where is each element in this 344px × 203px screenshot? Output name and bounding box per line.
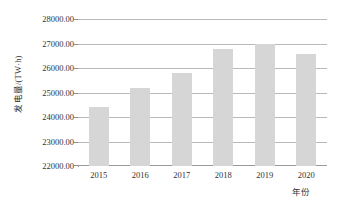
bar-chart: 发电量/(TW·h) 28000.00 27000.00 26000.00 25… <box>0 0 344 203</box>
x-tick-label: 2016 <box>120 170 160 180</box>
bar-2016 <box>130 88 150 166</box>
gridline <box>78 68 327 69</box>
y-axis-tick-labels: 28000.00 27000.00 26000.00 25000.00 2400… <box>8 19 74 166</box>
y-tick-label: 26000.00 <box>42 63 74 73</box>
y-tick-mark <box>74 19 78 20</box>
y-tick-label: 23000.00 <box>42 137 74 147</box>
bar-2019 <box>255 44 275 166</box>
x-tick-label: 2017 <box>162 170 202 180</box>
y-tick-mark <box>74 44 78 45</box>
x-tick-label: 2020 <box>286 170 326 180</box>
bar-2020 <box>296 54 316 166</box>
bar-2015 <box>89 107 109 166</box>
y-tick-mark <box>74 117 78 118</box>
gridline <box>78 93 327 94</box>
x-axis-title: 年份 <box>292 185 310 197</box>
y-tick-label: 28000.00 <box>42 14 74 24</box>
y-tick-mark <box>74 142 78 143</box>
y-tick-mark <box>74 93 78 94</box>
y-tick-mark <box>74 165 78 166</box>
x-tick-label: 2018 <box>203 170 243 180</box>
gridline <box>78 44 327 45</box>
x-axis-line <box>78 165 327 166</box>
bar-2018 <box>213 49 233 166</box>
y-tick-label: 22000.00 <box>42 161 74 171</box>
y-tick-label: 25000.00 <box>42 88 74 98</box>
x-axis-tick-labels: 201520162017201820192020 <box>78 170 327 184</box>
x-tick-label: 2019 <box>245 170 285 180</box>
x-tick-label: 2015 <box>79 170 119 180</box>
y-tick-label: 27000.00 <box>42 39 74 49</box>
bar-2017 <box>172 73 192 166</box>
gridline <box>78 142 327 143</box>
plot-area <box>78 19 327 166</box>
y-tick-mark <box>74 68 78 69</box>
y-tick-label: 24000.00 <box>42 112 74 122</box>
gridline <box>78 19 327 20</box>
gridline <box>78 117 327 118</box>
